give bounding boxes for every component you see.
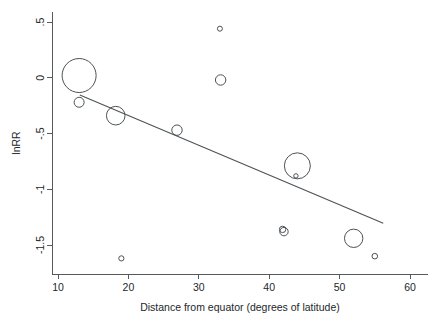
x-axis-ticks: 102030405060 bbox=[52, 274, 416, 293]
data-point-bubble bbox=[294, 174, 298, 178]
data-point-bubble bbox=[62, 59, 96, 93]
data-point-bubble bbox=[372, 253, 378, 259]
x-tick-label: 30 bbox=[193, 281, 205, 293]
y-axis-title: lnRR bbox=[10, 131, 22, 155]
data-point-bubble bbox=[106, 106, 125, 125]
data-point-bubble bbox=[172, 125, 182, 135]
x-tick-label: 60 bbox=[404, 281, 416, 293]
x-tick-label: 40 bbox=[263, 281, 275, 293]
x-tick-label: 50 bbox=[334, 281, 346, 293]
data-point-bubble bbox=[344, 229, 362, 247]
x-tick-label: 20 bbox=[123, 281, 135, 293]
axes bbox=[52, 12, 428, 274]
y-tick-label: 0 bbox=[34, 75, 46, 81]
data-point-bubble bbox=[74, 97, 84, 107]
x-tick-label: 10 bbox=[52, 281, 64, 293]
y-tick-label: .5 bbox=[34, 17, 46, 26]
chart-container: .50-.5-1-1.5 102030405060 Distance from … bbox=[0, 0, 439, 325]
x-axis-title: Distance from equator (degrees of latitu… bbox=[140, 301, 340, 313]
data-points bbox=[62, 26, 377, 261]
scatter-plot: .50-.5-1-1.5 102030405060 Distance from … bbox=[0, 0, 439, 325]
y-tick-label: -1.5 bbox=[34, 236, 46, 254]
y-axis-ticks: .50-.5-1-1.5 bbox=[34, 17, 52, 254]
data-point-bubble bbox=[217, 26, 222, 31]
y-tick-label: -1 bbox=[34, 184, 46, 193]
y-tick-label: -.5 bbox=[34, 127, 46, 139]
data-point-bubble bbox=[119, 256, 124, 261]
data-point-bubble bbox=[284, 153, 310, 179]
data-point-bubble bbox=[215, 75, 225, 85]
